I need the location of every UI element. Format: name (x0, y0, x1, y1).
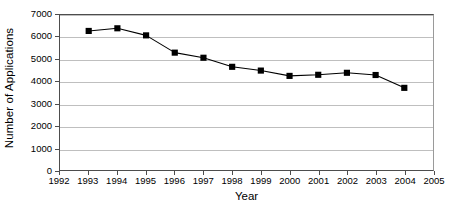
y-axis-tick-label: 3000 (31, 99, 52, 109)
data-series-applications (60, 15, 433, 170)
x-axis-tick-label: 2000 (279, 176, 300, 186)
y-axis-title: Number of Applications (0, 0, 18, 175)
data-point-marker (114, 25, 120, 31)
x-axis-tick-label: 1996 (164, 176, 185, 186)
data-point-marker (200, 55, 206, 61)
series-line (89, 28, 405, 88)
data-point-marker (344, 70, 350, 76)
data-point-marker (172, 50, 178, 56)
x-axis-tick-label: 1993 (77, 176, 98, 186)
y-axis-tick-label: 2000 (31, 121, 52, 131)
data-point-marker (143, 32, 149, 38)
y-axis-tick-label: 1000 (31, 144, 52, 154)
x-axis-tick-label: 1999 (250, 176, 271, 186)
x-axis-title: Year (59, 190, 434, 202)
x-axis-tick-label: 2005 (423, 176, 444, 186)
plot-area (59, 14, 434, 171)
data-point-marker (315, 72, 321, 78)
x-axis-tick-label: 2004 (395, 176, 416, 186)
data-point-marker (286, 73, 292, 79)
y-axis-tick-label: 4000 (31, 77, 52, 87)
data-point-marker (258, 68, 264, 74)
x-axis-tick-label: 2003 (366, 176, 387, 186)
y-axis-tick-label: 6000 (31, 32, 52, 42)
y-axis-tick-label: 5000 (31, 54, 52, 64)
x-axis-tick-label: 2002 (337, 176, 358, 186)
x-axis-tick-label: 1992 (48, 176, 69, 186)
x-axis-tick-label: 1997 (193, 176, 214, 186)
x-axis-tick-label: 2001 (308, 176, 329, 186)
x-axis-tick-label: 1994 (106, 176, 127, 186)
y-axis-title-text: Number of Applications (3, 27, 15, 147)
y-axis-tick-labels: 01000200030004000500060007000 (18, 0, 56, 180)
data-point-marker (373, 72, 379, 78)
x-axis-tick-label: 1995 (135, 176, 156, 186)
data-point-marker (86, 28, 92, 34)
x-axis-tick-label: 1998 (221, 176, 242, 186)
x-axis-tick-labels: 1992199319941995199619971998199920002001… (0, 176, 458, 190)
line-chart-figure: Number of Applications 01000200030004000… (0, 0, 458, 212)
data-point-marker (229, 64, 235, 70)
y-axis-tick-label: 7000 (31, 9, 52, 19)
data-point-marker (401, 85, 407, 91)
